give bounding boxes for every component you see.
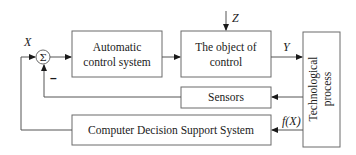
input-signal-label: X	[23, 35, 32, 49]
object-of-control-block: The object of control	[181, 31, 271, 77]
output-label: Y	[283, 40, 291, 54]
disturbance-label: Z	[232, 11, 239, 25]
acs-label-line2: control system	[83, 56, 150, 69]
cdss-block: Computer Decision Support System	[72, 115, 271, 145]
summator-node: Σ	[36, 50, 50, 64]
sensors-label: Sensors	[208, 91, 244, 103]
negative-feedback-sign: –	[50, 71, 57, 85]
sensors-block: Sensors	[181, 87, 271, 108]
technological-process-block: Technological process	[303, 32, 340, 147]
object-label-line1: The object of	[195, 41, 256, 54]
automatic-control-system-block: Automatic control system	[72, 31, 162, 77]
acs-label-line1: Automatic	[93, 41, 142, 53]
control-system-diagram: Σ X – Automatic control system The objec…	[0, 0, 356, 155]
object-label-line2: control	[210, 56, 243, 68]
tech-label-line2: process	[321, 71, 334, 106]
tech-label-line1: Technological	[307, 57, 320, 122]
cdss-label: Computer Decision Support System	[88, 124, 254, 137]
function-label: f(X)	[282, 114, 301, 128]
cdss-feedback-arrow	[21, 57, 72, 130]
sigma-symbol: Σ	[39, 52, 46, 63]
